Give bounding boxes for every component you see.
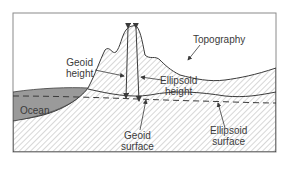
ellipsoid-height-label-line2: height: [160, 86, 197, 97]
ocean-label: Ocean: [20, 105, 49, 116]
topography-label: Topography: [193, 34, 245, 45]
geoid-surface-label-line2: surface: [121, 141, 154, 152]
ellipsoid-surface-label: Ellipsoid surface: [210, 125, 247, 147]
geoid-surface-label-line1: Geoid: [121, 130, 154, 141]
geoid-ellipsoid-diagram: [0, 0, 294, 179]
ocean-label-text: Ocean: [20, 105, 49, 116]
ellipsoid-height-label: Ellipsoid height: [160, 75, 197, 97]
geoid-surface-label: Geoid surface: [121, 130, 154, 152]
topography-label-text: Topography: [193, 34, 245, 45]
ellipsoid-surface-label-line2: surface: [210, 136, 247, 147]
geoid-height-label-line2: height: [66, 68, 93, 79]
geoid-height-label: Geoid height: [66, 57, 93, 79]
ellipsoid-height-label-line1: Ellipsoid: [160, 75, 197, 86]
ellipsoid-surface-label-line1: Ellipsoid: [210, 125, 247, 136]
geoid-height-label-line1: Geoid: [66, 57, 93, 68]
